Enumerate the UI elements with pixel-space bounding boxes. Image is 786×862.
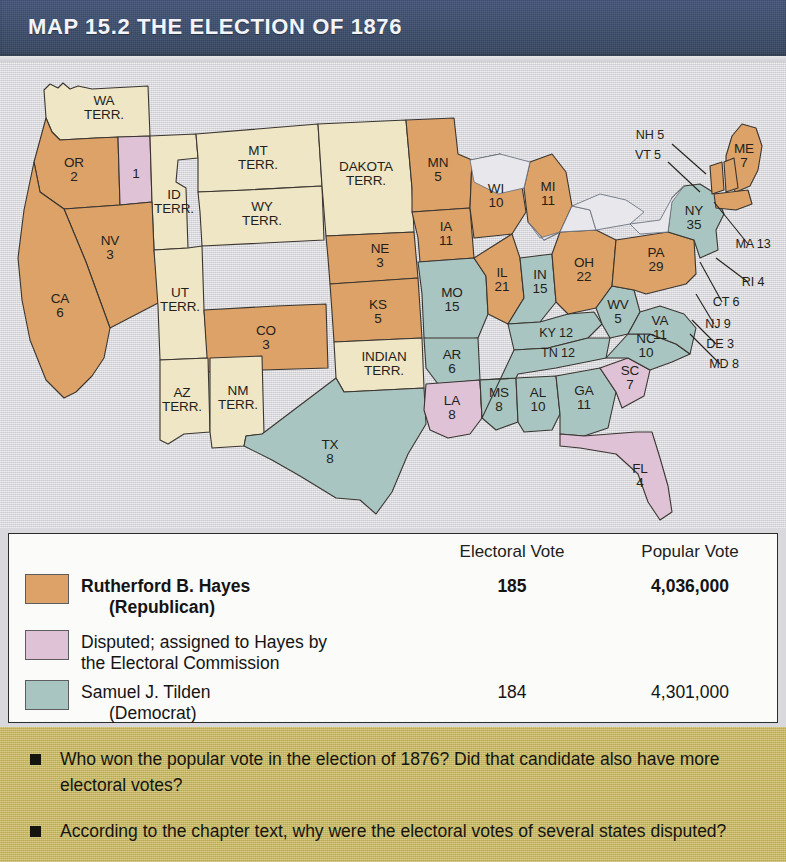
page-title: MAP 15.2 THE ELECTION OF 1876 bbox=[28, 14, 402, 40]
legend-col-popular: Popular Vote bbox=[609, 542, 771, 562]
legend-label-line2: (Republican) bbox=[109, 597, 250, 618]
legend-electoral-value: 184 bbox=[427, 682, 597, 703]
legend-electoral-value: 185 bbox=[427, 576, 597, 597]
map-figure-page: MAP 15.2 THE ELECTION OF 1876 WATERR.OR2… bbox=[0, 0, 786, 862]
legend-label-line1: Samuel J. Tilden bbox=[81, 682, 210, 702]
legend-label-line1: Disputed; assigned to Hayes by bbox=[81, 632, 327, 652]
state-nm bbox=[210, 356, 264, 448]
leader-line-8 bbox=[690, 334, 720, 364]
legend-label-line2: (Democrat) bbox=[109, 703, 210, 724]
state-ar bbox=[424, 338, 480, 384]
figure-header-banner: MAP 15.2 THE ELECTION OF 1876 bbox=[0, 0, 786, 56]
state-ma bbox=[714, 190, 752, 210]
state-id bbox=[150, 134, 198, 250]
state-az bbox=[160, 358, 210, 444]
state-pa bbox=[612, 232, 696, 294]
state-tx bbox=[244, 378, 426, 514]
legend-swatch-hayes bbox=[25, 574, 69, 604]
state-mn bbox=[406, 118, 472, 212]
legend-label: Disputed; assigned to Hayes bythe Electo… bbox=[81, 632, 327, 674]
review-question-text: Who won the popular vote in the election… bbox=[60, 747, 772, 798]
state-ia bbox=[412, 208, 474, 262]
leader-line-1 bbox=[672, 144, 706, 174]
state-ks bbox=[330, 278, 422, 342]
state-fl bbox=[560, 432, 672, 520]
state-vt bbox=[710, 162, 724, 194]
legend-popular-value: 4,301,000 bbox=[609, 682, 771, 703]
leader-line-4 bbox=[716, 258, 748, 282]
state-ne bbox=[326, 232, 418, 284]
state-mt bbox=[196, 124, 322, 192]
state-mo bbox=[418, 258, 488, 342]
state-al bbox=[516, 376, 560, 432]
state-ut bbox=[154, 246, 208, 360]
state-wy bbox=[198, 186, 324, 246]
legend-swatch-tilden bbox=[25, 680, 69, 710]
legend-label: Rutherford B. Hayes(Republican) bbox=[81, 576, 250, 618]
review-questions-band: Who won the popular vote in the election… bbox=[0, 727, 786, 862]
map-legend: Electoral Vote Popular Vote Rutherford B… bbox=[8, 533, 778, 723]
square-bullet-icon bbox=[30, 826, 41, 837]
legend-column-headers: Electoral Vote Popular Vote bbox=[9, 542, 777, 564]
legend-label-line2: the Electoral Commission bbox=[81, 653, 327, 674]
us-map-svg bbox=[0, 62, 786, 528]
state-it bbox=[334, 338, 424, 392]
state-wa bbox=[44, 83, 150, 140]
state-ord bbox=[118, 136, 152, 205]
legend-label: Samuel J. Tilden(Democrat) bbox=[81, 682, 210, 724]
legend-popular-value: 4,036,000 bbox=[609, 576, 771, 597]
legend-swatch-disputed bbox=[25, 630, 69, 660]
legend-col-electoral: Electoral Vote bbox=[427, 542, 597, 562]
leader-line-6 bbox=[696, 294, 714, 324]
legend-label-line1: Rutherford B. Hayes bbox=[81, 576, 250, 596]
leader-line-5 bbox=[700, 262, 722, 302]
state-dak bbox=[318, 120, 414, 236]
square-bullet-icon bbox=[30, 754, 41, 765]
state-la bbox=[424, 380, 482, 438]
election-map: WATERR.OR21IDTERR.MTTERR.WYTERR.NV3CA6UT… bbox=[0, 62, 786, 528]
review-question-text: According to the chapter text, why were … bbox=[60, 819, 772, 845]
